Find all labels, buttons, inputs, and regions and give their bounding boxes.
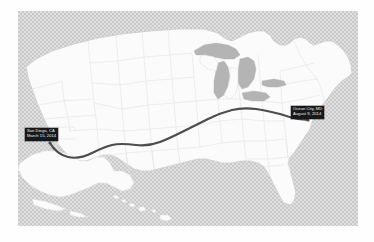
hawaii-inset [113, 195, 172, 221]
route-origin-marker [48, 141, 51, 144]
route-destination-marker [306, 118, 309, 121]
route-start-label[interactable]: San Diego, CA March 15, 2014 [25, 128, 58, 141]
map-canvas[interactable]: .land{fill:#fbfbfb;stroke:#e0e0e0;stroke… [18, 11, 358, 226]
end-label-date: August 9, 2014 [293, 112, 322, 117]
route-end-label[interactable]: Ocean City, MD August 9, 2014 [291, 106, 324, 119]
start-label-date: March 15, 2014 [27, 134, 56, 139]
map-screenshot: .land{fill:#fbfbfb;stroke:#e0e0e0;stroke… [0, 0, 374, 242]
alaska-inset [18, 151, 134, 217]
